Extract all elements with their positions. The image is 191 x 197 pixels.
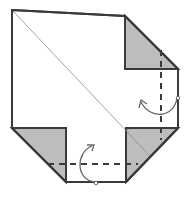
origami-diagram [0, 0, 191, 197]
